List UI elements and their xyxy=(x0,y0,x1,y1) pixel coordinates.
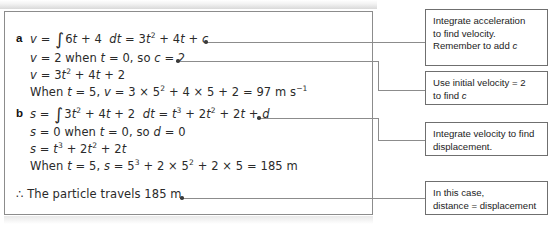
note-line: In this case, xyxy=(433,187,541,200)
note-line: Use initial velocity = 2 xyxy=(433,77,541,90)
connector-conclusion xyxy=(184,198,425,199)
note-line: Integrate velocity to find xyxy=(433,128,541,141)
connector-a2-segment-3 xyxy=(378,90,425,91)
math-line-b2: s = 0 when t = 0, so d = 0 xyxy=(30,125,186,139)
note-use-initial-velocity: Use initial velocity = 2 to find c xyxy=(425,71,548,105)
note-line: Integrate acceleration xyxy=(433,15,541,28)
anchor-dot-b1 xyxy=(257,116,261,120)
anchor-dot-a1 xyxy=(204,40,208,44)
note-line: distance = displacement xyxy=(433,200,541,213)
note-line: to find c xyxy=(433,90,541,103)
note-distance-displacement: In this case, distance = displacement xyxy=(425,181,548,215)
note-line: to find velocity. xyxy=(433,28,541,41)
note-line: displacement. xyxy=(433,141,541,154)
note-integrate-velocity: Integrate velocity to find displacement. xyxy=(425,122,548,156)
connector-b1-segment-2 xyxy=(378,118,379,141)
connector-b1-segment-1 xyxy=(261,118,378,119)
connector-a1 xyxy=(208,42,425,43)
connector-b1-segment-3 xyxy=(378,140,425,141)
anchor-dot-conclusion xyxy=(180,196,184,200)
math-line-b1: s = ∫3t2 + 4t + 2 dt = t3 + 2t2 + 2t + d xyxy=(30,107,270,121)
note-line: Remember to add c xyxy=(433,40,541,53)
conclusion-line: ∴ The particle travels 185 m xyxy=(16,187,182,201)
part-label-a: a xyxy=(16,32,22,44)
math-line-a2: v = 2 when t = 0, so c = 2 xyxy=(30,51,185,65)
top-decorative-band xyxy=(0,0,377,9)
bottom-decorative-band xyxy=(4,216,373,224)
connector-a2-segment-1 xyxy=(180,61,378,62)
anchor-dot-a2 xyxy=(176,59,180,63)
note-integrate-acceleration: Integrate acceleration to find velocity.… xyxy=(425,9,548,66)
connector-a2-segment-2 xyxy=(378,61,379,91)
math-line-a1: v = ∫6t + 4 dt = 3t2 + 4t + c xyxy=(30,32,209,46)
math-line-a4: When t = 5, v = 3 × 52 + 4 × 5 + 2 = 97 … xyxy=(30,85,308,99)
math-line-b4: When t = 5, s = 53 + 2 × 52 + 2 × 5 = 18… xyxy=(30,159,298,173)
part-label-b: b xyxy=(16,107,23,119)
math-line-b3: s = t3 + 2t2 + 2t xyxy=(30,142,126,156)
math-line-a3: v = 3t2 + 4t + 2 xyxy=(30,68,125,82)
